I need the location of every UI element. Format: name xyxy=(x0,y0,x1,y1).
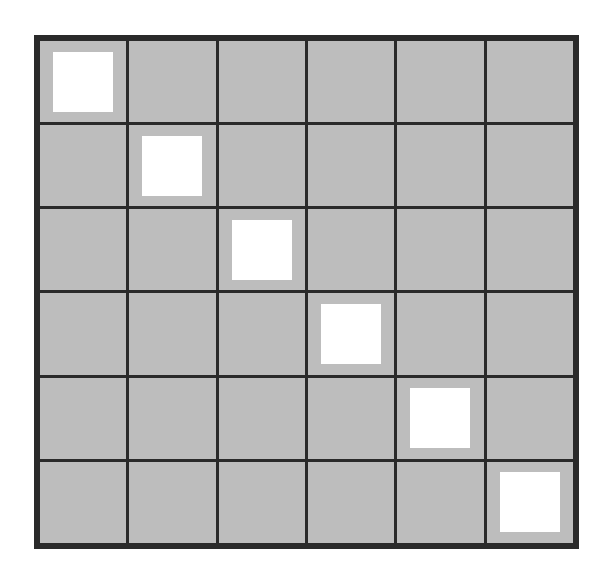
grid-cell xyxy=(219,125,305,206)
grid-cell xyxy=(397,125,483,206)
grid-cell xyxy=(40,378,126,459)
grid-cell xyxy=(219,378,305,459)
grid-cell xyxy=(487,293,573,374)
grid-cell xyxy=(487,41,573,122)
grid-cell xyxy=(308,293,394,374)
grid-cell xyxy=(40,209,126,290)
white-square-marker xyxy=(142,136,202,196)
grid-cell xyxy=(487,378,573,459)
white-square-marker xyxy=(321,304,381,364)
grid-cell xyxy=(129,378,215,459)
grid-cell xyxy=(308,462,394,543)
grid-cell xyxy=(397,293,483,374)
grid-cell xyxy=(308,125,394,206)
grid-cell xyxy=(40,462,126,543)
grid-cell xyxy=(219,209,305,290)
grid-cell xyxy=(219,462,305,543)
grid-cell xyxy=(487,462,573,543)
grid-cell xyxy=(308,41,394,122)
grid-cell xyxy=(40,125,126,206)
grid-cell xyxy=(40,293,126,374)
grid-cell xyxy=(129,293,215,374)
white-square-marker xyxy=(500,472,560,532)
grid-cell xyxy=(487,209,573,290)
grid-cell xyxy=(40,41,126,122)
grid-cell xyxy=(487,125,573,206)
grid-cell xyxy=(129,209,215,290)
grid-cell xyxy=(308,209,394,290)
white-square-marker xyxy=(410,388,470,448)
grid-cell xyxy=(397,378,483,459)
grid-cell xyxy=(129,41,215,122)
grid-board xyxy=(34,35,579,549)
grid-cell xyxy=(308,378,394,459)
grid-cell xyxy=(219,293,305,374)
white-square-marker xyxy=(232,220,292,280)
white-square-marker xyxy=(53,52,113,112)
grid-cell xyxy=(397,41,483,122)
grid-cell xyxy=(219,41,305,122)
grid-cell xyxy=(397,209,483,290)
grid-cell xyxy=(129,462,215,543)
grid-cell xyxy=(129,125,215,206)
grid-cell xyxy=(397,462,483,543)
